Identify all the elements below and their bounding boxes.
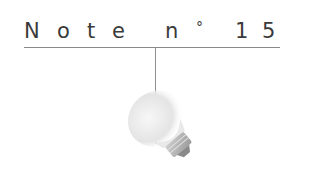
title-underline: [24, 47, 280, 48]
title-char: t: [87, 18, 95, 44]
title-char: N: [24, 18, 40, 44]
title-char: e: [112, 18, 125, 44]
lightbulb-icon: [112, 78, 232, 168]
title-char-degree: °: [196, 14, 203, 40]
title-char: n: [165, 18, 178, 44]
title-char: 5: [262, 18, 275, 44]
title-char: o: [57, 18, 70, 44]
note-title: N o t e n ° 1 5: [24, 18, 282, 44]
title-char: 1: [235, 18, 248, 44]
